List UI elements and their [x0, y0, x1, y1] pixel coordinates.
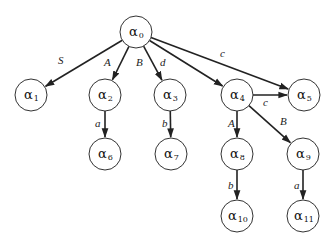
node-a1: α1	[15, 79, 47, 111]
edge-label: A	[103, 56, 111, 68]
node-a3: α3	[154, 79, 186, 111]
node-a4: α4	[221, 79, 253, 111]
edge-label: B	[136, 56, 143, 68]
node-a10: α10	[221, 200, 253, 232]
edge-label: S	[58, 54, 64, 66]
edge-label: b	[228, 179, 234, 191]
tree-diagram: SABdccabABba α0α1α2α3α4α5α6α7α8α9α10α11	[0, 0, 335, 244]
node-a2: α2	[89, 79, 121, 111]
node-a11: α11	[287, 200, 319, 232]
edge-label: d	[160, 56, 166, 68]
node-a0: α0	[120, 16, 152, 48]
edge-label: c	[220, 47, 225, 59]
edge-a0-a2	[113, 46, 129, 79]
edge-label: a	[95, 117, 101, 129]
node-a8: α8	[221, 138, 253, 170]
edge-label: b	[162, 117, 168, 129]
node-a5: α5	[288, 79, 320, 111]
edges	[46, 38, 303, 199]
node-a7: α7	[155, 138, 187, 170]
edge-label: A	[227, 117, 235, 129]
node-a9: α9	[287, 138, 319, 170]
edge-label: c	[263, 96, 268, 108]
edge-label: B	[280, 115, 287, 127]
edge-label: a	[294, 179, 300, 191]
node-a6: α6	[89, 138, 121, 170]
arrow-icon	[113, 46, 129, 79]
nodes: α0α1α2α3α4α5α6α7α8α9α10α11	[15, 16, 320, 232]
